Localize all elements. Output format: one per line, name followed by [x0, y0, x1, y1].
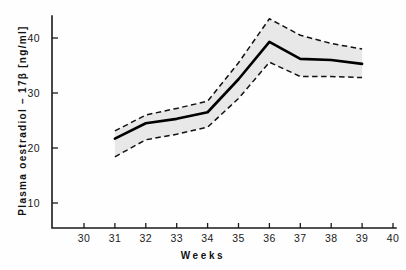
y-tick-label: 10	[28, 197, 40, 209]
x-tick-label: 31	[109, 232, 121, 244]
x-tick-label: 32	[140, 232, 152, 244]
plot-area: 10203040 3031323334353637383940	[0, 0, 406, 270]
x-axis-label: Weeks	[0, 250, 406, 261]
x-axis-ticks: 3031323334353637383940	[78, 223, 399, 244]
y-axis-ticks: 10203040	[28, 32, 58, 209]
confidence-band	[115, 19, 362, 157]
x-tick-label: 38	[325, 232, 337, 244]
x-tick-label: 35	[232, 232, 244, 244]
x-tick-label: 30	[78, 232, 90, 244]
y-tick-label: 30	[28, 87, 40, 99]
x-tick-label: 36	[263, 232, 275, 244]
y-tick-label: 20	[28, 142, 40, 154]
y-axis-label: Plasma oestradiol – 17β [ng/ml]	[17, 16, 28, 226]
x-tick-label: 37	[294, 232, 306, 244]
y-tick-label: 40	[28, 32, 40, 44]
x-tick-label: 39	[356, 232, 368, 244]
x-tick-label: 40	[387, 232, 399, 244]
x-tick-label: 34	[201, 232, 213, 244]
x-tick-label: 33	[170, 232, 182, 244]
confidence-band-fill	[115, 19, 362, 157]
chart-figure: 10203040 3031323334353637383940 Plasma o…	[0, 0, 406, 270]
